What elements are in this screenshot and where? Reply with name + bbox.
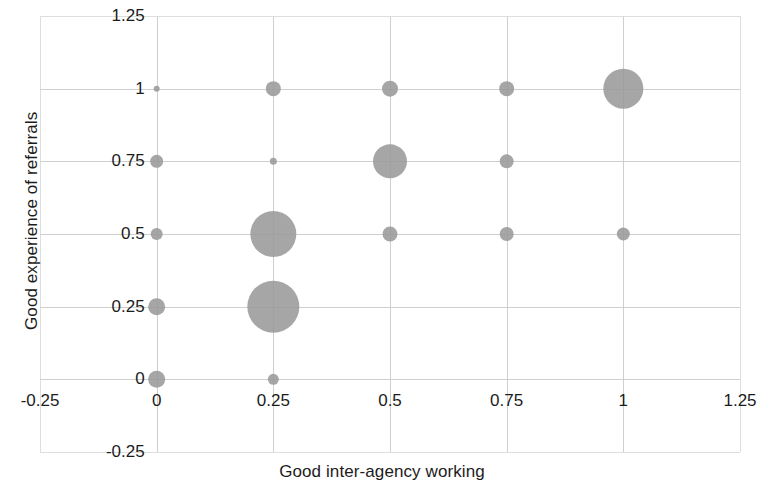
data-point bbox=[500, 227, 514, 241]
data-point bbox=[148, 371, 165, 388]
data-point bbox=[603, 69, 643, 109]
bubble-chart: -0.2500.250.50.7511.25 -0.2500.250.50.75… bbox=[0, 0, 764, 493]
data-point bbox=[382, 81, 398, 97]
data-point bbox=[148, 298, 165, 315]
data-point bbox=[150, 155, 163, 168]
y-axis-tick-label: 1.25 bbox=[0, 6, 145, 26]
data-point bbox=[270, 158, 277, 165]
x-axis-title: Good inter-agency working bbox=[0, 462, 764, 482]
data-point bbox=[266, 81, 281, 96]
x-axis-tick-label: 0 bbox=[152, 391, 161, 411]
data-point bbox=[373, 144, 407, 178]
y-axis-tick-label: 0 bbox=[0, 369, 145, 389]
data-point bbox=[154, 86, 160, 92]
y-axis-tick-label: 1 bbox=[0, 79, 145, 99]
x-axis-tick-label: 1 bbox=[619, 391, 628, 411]
y-axis-tick-label: -0.25 bbox=[0, 442, 145, 462]
data-point bbox=[500, 154, 514, 168]
data-point bbox=[383, 227, 398, 242]
data-point bbox=[151, 228, 163, 240]
data-point bbox=[268, 374, 279, 385]
x-axis-tick-label: -0.25 bbox=[21, 391, 60, 411]
data-point bbox=[617, 228, 630, 241]
data-point bbox=[250, 211, 296, 257]
y-axis-title: Good experience of referrals bbox=[22, 112, 42, 330]
x-axis-tick-label: 0.75 bbox=[490, 391, 523, 411]
x-axis-tick-label: 1.25 bbox=[723, 391, 756, 411]
x-axis-tick-label: 0.25 bbox=[257, 391, 290, 411]
x-axis-tick-label: 0.5 bbox=[378, 391, 402, 411]
data-points bbox=[148, 69, 643, 388]
data-point bbox=[247, 281, 299, 333]
data-point bbox=[499, 81, 514, 96]
plot-area bbox=[0, 0, 764, 493]
